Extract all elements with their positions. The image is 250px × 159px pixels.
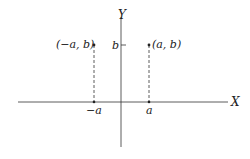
point-label-a-b: (a, b)	[152, 38, 181, 51]
y-axis-label: Y	[118, 8, 127, 22]
x-mark-a	[148, 101, 151, 104]
y-tick-label-b: b	[112, 39, 119, 52]
coordinate-diagram: X Y b (−a, b) −a (a, b) a	[0, 0, 250, 159]
x-axis-label: X	[230, 95, 240, 109]
point-label-neg-a-b: (−a, b)	[56, 38, 94, 51]
point-a-b	[148, 44, 151, 47]
x-tick-label-neg-a: −a	[86, 104, 102, 117]
x-tick-label-a: a	[146, 104, 153, 117]
x-mark-neg-a	[93, 101, 96, 104]
